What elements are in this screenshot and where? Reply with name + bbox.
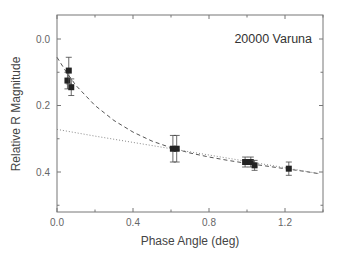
x-tick-label: 1.2: [278, 217, 292, 228]
x-tick-label: 0.8: [202, 217, 216, 228]
y-tick-label: 0.0: [36, 34, 50, 45]
y-tick-label: 0.4: [36, 167, 50, 178]
x-tick-label: 0.4: [126, 217, 140, 228]
y-tick-label: 0.2: [36, 100, 50, 111]
chart-title: 20000 Varuna: [234, 32, 312, 46]
x-axis-label: Phase Angle (deg): [141, 234, 240, 248]
y-axis-label: Relative R Magnitude: [9, 56, 23, 171]
phase-curve-chart: 0.00.40.81.20.00.20.4 20000 Varuna Phase…: [0, 0, 339, 261]
x-tick-label: 0.0: [50, 217, 64, 228]
